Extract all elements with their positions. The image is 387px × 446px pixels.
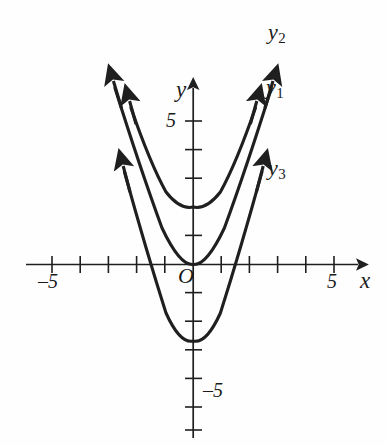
- x-tick-label-5: 5: [327, 271, 337, 291]
- curve-label-y2: y2: [268, 21, 286, 46]
- graph-canvas: [0, 0, 387, 446]
- x-tick-label-neg5: –5: [38, 271, 58, 291]
- parabola-graph-figure: y2 y1 y3 x y O 5 –5 5 –5: [0, 0, 387, 446]
- x-axis-label: x: [360, 269, 370, 292]
- y-tick-label-neg5: –5: [203, 380, 223, 400]
- origin-label: O: [178, 265, 194, 287]
- curve-label-y3: y3: [268, 157, 286, 182]
- y-axis-label: y: [176, 78, 186, 101]
- y-tick-label-5: 5: [166, 110, 176, 130]
- curve-label-y1: y1: [266, 76, 284, 101]
